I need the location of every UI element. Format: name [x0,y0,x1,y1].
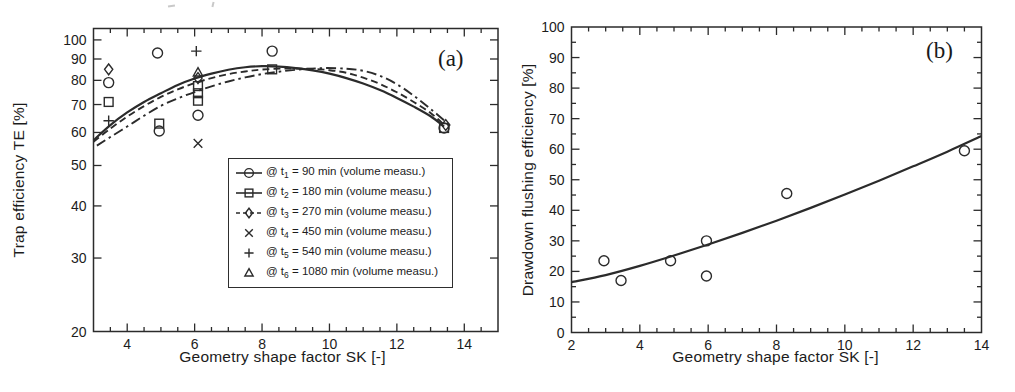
legend-item-t3-label: @ t3 = 270 min (volume measu.) [266,205,432,220]
svg-text:100: 100 [63,32,87,48]
chart-panel-b: 24681012140102030405060708090100 Drawdow… [507,0,1015,392]
legend-item-t6-label: @ t6 = 1080 min (volume measu.) [266,265,438,280]
svg-text:80: 80 [71,72,87,88]
svg-text:40: 40 [71,198,87,214]
chart-b-y-axis-title: Drawdown flushing efficiency [%] [520,64,536,297]
svg-text:60: 60 [71,124,87,140]
svg-text:20: 20 [549,263,565,279]
legend-item-t3: @ t3 = 270 min (volume measu.) [235,204,448,223]
svg-text:30: 30 [71,250,87,266]
svg-text:60: 60 [549,141,565,157]
svg-text:70: 70 [71,97,87,113]
x-marker-icon [235,225,263,241]
svg-text:70: 70 [549,111,565,127]
fitted-curves [572,136,982,282]
triangle-marker-icon [235,265,263,281]
legend-item-t1-label: @ t1 = 90 min (volume measu.) [266,165,425,180]
chart-b-x-axis-title: Geometry shape factor SK [-] [573,349,978,365]
chart-panel-a: 4681012142030405060708090100 Trap effici… [0,0,507,392]
svg-text:90: 90 [71,51,87,67]
legend-item-t4-label: @ t4 = 450 min (volume measu.) [266,225,432,240]
legend-item-t4: @ t4 = 450 min (volume measu.) [235,224,448,243]
svg-text:90: 90 [549,50,565,66]
svg-text:50: 50 [71,157,87,173]
legend-item-t2-label: @ t2 = 180 min (volume measu.) [266,185,432,200]
svg-text:100: 100 [541,19,565,35]
svg-text:80: 80 [549,80,565,96]
svg-text:30: 30 [549,233,565,249]
svg-text:10: 10 [549,294,565,310]
axis-ticks [572,27,982,333]
chart-a-y-axis-title: Trap efficiency TE [%] [11,103,27,258]
chart-a-legend: @ t1 = 90 min (volume measu.) @ t2 = 180… [228,158,453,288]
plus-marker-icon [235,245,263,261]
diamond-dashed-line-marker-icon [235,205,263,221]
svg-text:40: 40 [549,202,565,218]
svg-text:50: 50 [549,172,565,188]
panel-b-label: (b) [926,38,953,64]
svg-text:20: 20 [71,324,87,340]
tick-labels: 24681012140102030405060708090100 [541,19,989,353]
circle-solid-line-marker-icon [235,165,263,181]
legend-item-t5: @ t5 = 540 min (volume measu.) [235,244,448,263]
chart-a-x-axis-title: Geometry shape factor SK [-] [80,349,485,365]
legend-item-t2: @ t2 = 180 min (volume measu.) [235,184,448,203]
square-solid-line-marker-icon [235,185,263,201]
legend-item-t6: @ t6 = 1080 min (volume measu.) [235,264,448,283]
svg-text:0: 0 [557,325,565,341]
plot-border [572,27,982,333]
panel-a-label: (a) [438,46,464,72]
legend-item-t1: @ t1 = 90 min (volume measu.) [235,164,448,183]
two-panel-scientific-figure: 4681012142030405060708090100 Trap effici… [0,0,1015,392]
fitted-curves [94,66,448,145]
legend-item-t5-label: @ t5 = 540 min (volume measu.) [266,245,432,260]
